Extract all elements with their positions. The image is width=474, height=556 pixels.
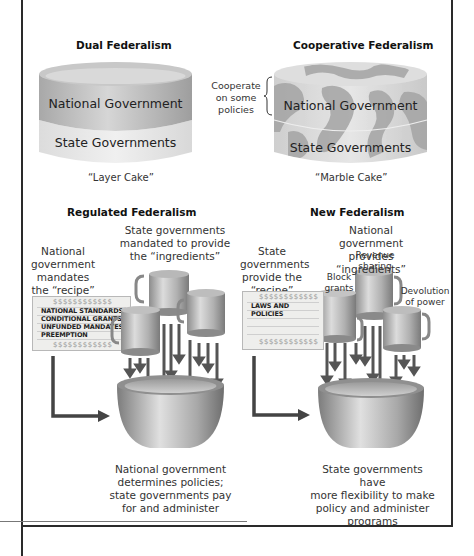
card-dollar-row-bottom: $$$$$$$$$$$$ bbox=[259, 338, 318, 346]
pot-icon bbox=[318, 378, 424, 448]
new-federalism-title: New Federalism bbox=[310, 206, 404, 218]
new-result-text: State governments have more flexibility … bbox=[310, 463, 435, 528]
pot-icon bbox=[117, 375, 224, 448]
cup-icon bbox=[112, 306, 160, 356]
regulated-result-text: National government determines policies;… bbox=[108, 463, 233, 515]
card-item-laws-and: LAWS AND bbox=[251, 302, 289, 310]
new-recipe-card: $$$$$$$$$$$$ LAWS AND POLICIES $$$$$$$$$… bbox=[242, 291, 324, 350]
card-dollar-row-top: $$$$$$$$$$$$ bbox=[259, 293, 318, 301]
new-recipe-label: State governments provide the “recipe” bbox=[240, 245, 304, 297]
card-item-policies: POLICIES bbox=[251, 310, 283, 318]
recipe-to-pot-arrow-icon bbox=[254, 356, 310, 421]
cup-icon bbox=[383, 306, 429, 352]
devolution-of-power-label: Devolution of power bbox=[400, 286, 450, 308]
recipe-to-pot-arrow-icon bbox=[53, 356, 110, 422]
revenue-sharing-label: Revenue sharing bbox=[355, 250, 395, 272]
block-grants-label: Block grants bbox=[322, 272, 356, 294]
cup-icon bbox=[318, 289, 362, 343]
